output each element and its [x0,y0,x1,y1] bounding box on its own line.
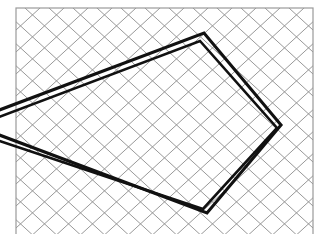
geometry-figure [0,0,322,234]
figure-container: Quadrilateral on rhombic grid paper [0,0,322,234]
